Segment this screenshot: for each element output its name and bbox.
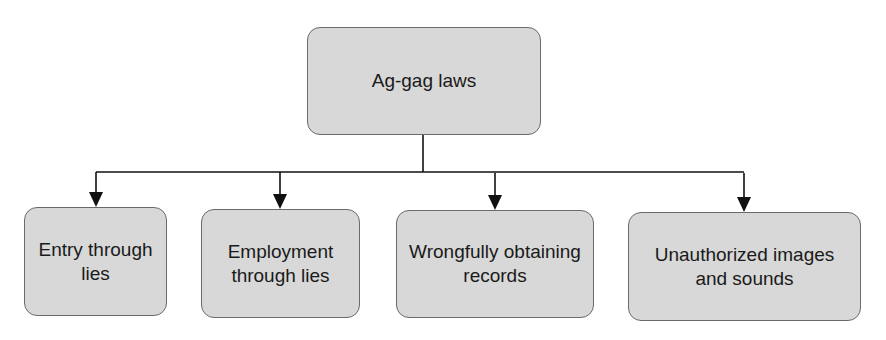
arrowhead-icon	[89, 192, 103, 207]
child-node-label: Employment through lies	[202, 240, 359, 288]
child-node-wrongfully-obtaining-records: Wrongfully obtaining records	[396, 210, 594, 318]
arrowhead-icon	[737, 197, 751, 212]
root-node-ag-gag-laws: Ag-gag laws	[307, 27, 541, 135]
arrowhead-icon	[488, 195, 502, 210]
arrowhead-icon	[273, 194, 287, 209]
child-node-unauthorized-images-and-sounds: Unauthorized images and sounds	[628, 212, 861, 321]
child-node-entry-through-lies: Entry through lies	[24, 207, 167, 316]
child-node-employment-through-lies: Employment through lies	[201, 209, 360, 318]
root-node-label: Ag-gag laws	[366, 69, 483, 93]
child-node-label: Wrongfully obtaining records	[397, 240, 593, 288]
child-node-label: Unauthorized images and sounds	[629, 243, 860, 291]
child-node-label: Entry through lies	[25, 238, 166, 286]
